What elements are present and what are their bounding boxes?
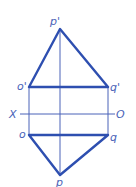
label-x-axis: X [8, 108, 17, 121]
label-o-axis: O [116, 108, 125, 121]
label-q-prime: q' [110, 81, 120, 94]
label-p-prime: p' [49, 15, 60, 28]
label-p: p [55, 176, 63, 187]
front-view-triangle [29, 29, 108, 87]
top-view-triangle [29, 135, 108, 175]
label-q: q [110, 131, 117, 144]
projection-diagram: p' o' q' X O o q p [0, 0, 136, 187]
label-o-prime: o' [17, 80, 27, 93]
label-o: o [19, 128, 26, 141]
